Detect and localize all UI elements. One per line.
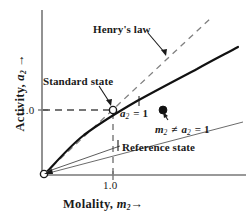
m2-subscript: 2 (164, 128, 168, 137)
activity-vs-molality-figure: Activity, a2 → Molality, m2→ 1.0 1.0 Hen… (0, 0, 250, 219)
y-tick-label-1: 1.0 (20, 105, 34, 116)
m2-symbol: m (155, 123, 164, 135)
standard-state-arrowhead (106, 99, 112, 106)
a2-equals-text: = 1 (133, 107, 148, 119)
not-equal-icon: ≠ (171, 123, 177, 135)
molality-not-activity-annotation: m2 ≠ a2 = 1 (155, 120, 210, 137)
x-axis-title: Molality, m2→ (63, 198, 143, 212)
m2-a2-tail-text: = 1 (195, 123, 210, 135)
a2-subscript: 2 (126, 112, 130, 121)
x-axis-title-text: Molality, (63, 197, 113, 211)
y-axis-arrow-icon: → (13, 54, 27, 67)
activity-unity-annotation: a2 = 1 (120, 104, 148, 121)
standard-state-marker (109, 106, 116, 113)
x-axis-symbol: m (117, 197, 127, 211)
real-solution-marker (159, 106, 167, 114)
a2-subscript-2: 2 (187, 128, 191, 137)
henrys-law-annotation: Henry's law (93, 24, 151, 35)
y-axis-symbol: a (13, 74, 27, 81)
x-tick-label-1: 1.0 (103, 180, 117, 191)
standard-state-annotation: Standard state (43, 76, 113, 87)
y-axis-title: Activity, a2 → (14, 28, 28, 158)
reference-state-leader (46, 146, 120, 172)
y-axis-subscript: 2 (19, 70, 28, 74)
x-axis-arrow-icon: → (130, 197, 143, 211)
reference-state-annotation: Reference state (122, 142, 195, 153)
henrys-law-arrowhead (161, 49, 167, 56)
